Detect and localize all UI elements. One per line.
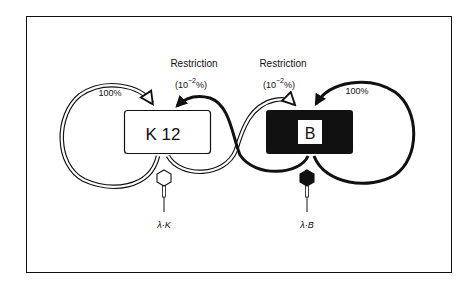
restriction-diagram: K 12 B 100% 100% Restriction (10−2%) Res… <box>0 0 473 290</box>
phage-b-label: λ·B <box>299 220 313 230</box>
host-label-k12: K 12 <box>146 125 181 144</box>
restriction-title-left: Restriction <box>170 58 217 69</box>
phage-k-icon <box>157 170 171 212</box>
restriction-title-right: Restriction <box>259 58 306 69</box>
restriction-rate-left: (10−2%) <box>175 77 207 90</box>
self-rate-left: 100% <box>98 88 121 98</box>
phage-k-label: λ·K <box>156 220 171 230</box>
phage-b-icon <box>300 170 314 212</box>
self-rate-right: 100% <box>345 86 368 96</box>
host-label-b: B <box>305 125 316 142</box>
restriction-rate-right: (10−2%) <box>263 77 295 90</box>
